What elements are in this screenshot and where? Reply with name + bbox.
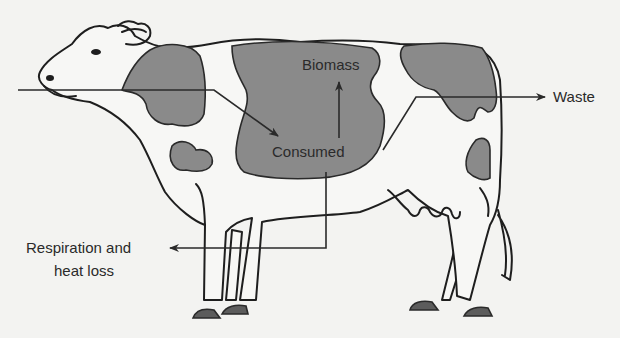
hoof-back-left — [410, 301, 438, 310]
hoof-front-right — [222, 305, 248, 314]
consumed-label: Consumed — [272, 143, 345, 161]
waste-label: Waste — [553, 88, 595, 106]
hoof-front-left — [193, 309, 220, 318]
cow-ear-inner — [122, 29, 146, 32]
cow-energy-diagram: Biomass Consumed Waste Respiration and h… — [0, 0, 620, 338]
respiration-label-line2: heat loss — [54, 262, 114, 280]
hoof-back-right — [464, 307, 492, 316]
respiration-label-line1: Respiration and — [26, 239, 131, 257]
cow-nostril — [46, 75, 54, 81]
cow-eye — [91, 49, 101, 55]
cow-illustration — [0, 0, 620, 338]
cow-front-leg-far — [226, 230, 242, 300]
cow-tail — [498, 210, 512, 280]
biomass-label: Biomass — [302, 56, 360, 74]
